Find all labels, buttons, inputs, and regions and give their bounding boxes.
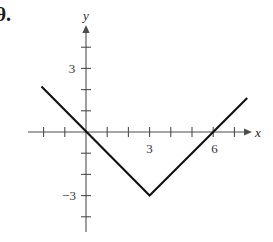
y-axis-group: y <box>81 8 89 232</box>
y-tick-label-neg3: −3 <box>62 188 76 203</box>
x-axis-label: x <box>254 125 261 140</box>
y-tick-label-3: 3 <box>69 61 76 76</box>
figure-page: 9. x y <box>0 0 273 242</box>
graph-figure: x y 3 <box>0 0 273 242</box>
y-axis-label: y <box>81 8 89 23</box>
x-tick-label-3: 3 <box>146 141 153 156</box>
x-axis-group: x <box>28 125 261 140</box>
x-axis-arrow-icon <box>244 128 252 135</box>
x-tick-label-6: 6 <box>211 141 218 156</box>
y-axis-arrow-icon <box>82 25 89 33</box>
